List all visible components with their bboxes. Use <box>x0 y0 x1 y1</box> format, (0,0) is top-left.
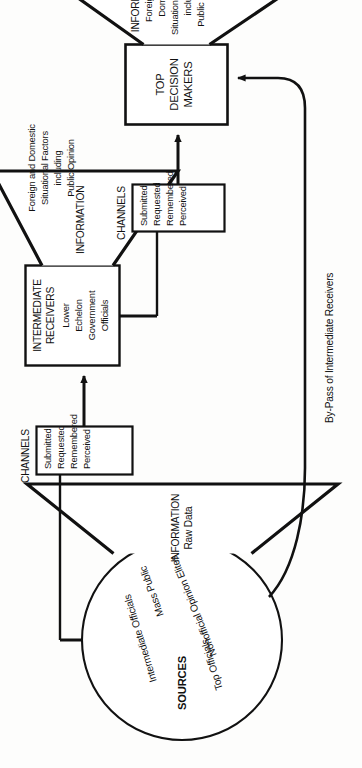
information-top-line5: Public Opinion <box>196 0 207 58</box>
information-top-line4: including <box>183 0 194 58</box>
sources-label: SOURCES <box>176 656 189 710</box>
channels-upper-item-remembered: Remembered <box>165 171 176 226</box>
information-middle-line4: Public Opinion <box>66 108 77 228</box>
information-top-line1: Foreign and <box>144 0 155 58</box>
information-top-line2: Domestic <box>157 0 168 58</box>
channels-lower-item-submitted: Submitted <box>43 429 54 469</box>
information-top-line3: Situational Factors <box>170 0 181 58</box>
information-middle-line1: Foreign and Domestic <box>27 108 38 228</box>
channels-lower-item-requested: Requested <box>56 425 67 469</box>
intermediate-receivers-heading-line1: INTERMEDIATE <box>32 265 43 366</box>
intermediate-receivers-detail-government: Government <box>87 265 98 366</box>
intermediate-receivers-detail-officials: Officials <box>100 265 111 366</box>
information-middle-heading: INFORMATION <box>75 186 86 254</box>
channels-lower-item-perceived: Perceived <box>82 429 93 469</box>
channels-upper-item-requested: Requested <box>152 182 163 226</box>
channels-upper-item-perceived: Perceived <box>178 186 189 226</box>
intermediate-receivers-detail-lower: Lower <box>61 265 72 366</box>
information-middle-line3: including <box>53 108 64 228</box>
channels-lower-heading: CHANNELS <box>20 429 31 483</box>
information-raw-subheading: Raw Data <box>183 493 194 563</box>
diagram-canvas: SOURCES Top Officials Intermediate Offic… <box>0 0 362 768</box>
information-top-heading: INFORMATION <box>130 0 141 58</box>
intermediate-receivers-detail-echelon: Echelon <box>74 265 85 366</box>
diagram-page: SOURCES Top Officials Intermediate Offic… <box>0 0 362 768</box>
channels-lower-item-remembered: Remembered <box>69 414 80 469</box>
bypass-label: By-Pass of Intermediate Receivers <box>324 273 335 423</box>
information-raw-heading: INFORMATION <box>170 493 181 563</box>
information-middle-line2: Situational Factors <box>40 108 51 228</box>
channels-upper-heading: CHANNELS <box>116 186 127 240</box>
intermediate-receivers-heading-line2: RECEIVERS <box>45 265 56 366</box>
channels-upper-item-submitted: Submitted <box>139 186 150 226</box>
